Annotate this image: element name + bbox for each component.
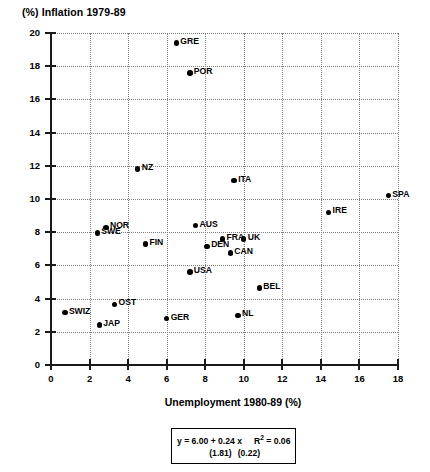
gridline-horizontal-10 bbox=[51, 199, 398, 200]
y-tick-label-8: 8 bbox=[8, 227, 40, 237]
data-point-label: AUS bbox=[200, 220, 218, 229]
data-point-label: BEL bbox=[263, 282, 280, 291]
y-tick-12 bbox=[45, 165, 56, 167]
data-point-marker bbox=[235, 313, 240, 318]
data-point-label: CAN bbox=[234, 247, 253, 256]
y-tick-8 bbox=[45, 231, 56, 233]
gridline-horizontal-12 bbox=[51, 166, 398, 167]
data-point-marker bbox=[257, 285, 262, 290]
data-point-marker bbox=[62, 310, 67, 315]
data-point-marker bbox=[241, 236, 246, 241]
y-tick-label-18: 18 bbox=[8, 61, 40, 71]
data-point-label: IRE bbox=[333, 206, 347, 215]
x-tick-0 bbox=[50, 359, 52, 370]
data-point-marker bbox=[174, 40, 179, 45]
x-tick-label-8: 8 bbox=[190, 374, 220, 384]
gridline-horizontal-20 bbox=[51, 33, 398, 34]
regression-annotation-box: y = 6.00 + 0.24 xR2 = 0.06 (1.81)(0.22) bbox=[171, 428, 296, 464]
x-axis-title: Unemployment 1980-89 (%) bbox=[0, 396, 430, 408]
data-point-label: DEN bbox=[211, 240, 229, 249]
data-point-label: SWE bbox=[101, 227, 121, 236]
data-point-marker bbox=[386, 193, 391, 198]
x-tick-4 bbox=[127, 359, 129, 370]
gridline-horizontal-2 bbox=[51, 332, 398, 333]
data-point-label: GER bbox=[171, 313, 190, 322]
y-tick-16 bbox=[45, 98, 56, 100]
gridline-horizontal-16 bbox=[51, 99, 398, 100]
data-point-label: FIN bbox=[149, 238, 163, 247]
x-tick-10 bbox=[243, 359, 245, 370]
data-point-marker bbox=[187, 269, 192, 274]
std-error-slope: (0.22) bbox=[238, 448, 260, 458]
std-error-intercept: (1.81) bbox=[209, 448, 231, 458]
x-tick-label-0: 0 bbox=[36, 374, 66, 384]
y-tick-label-0: 0 bbox=[8, 360, 40, 370]
data-point-label: NL bbox=[242, 309, 253, 318]
y-tick-2 bbox=[45, 331, 56, 333]
regression-equation: y = 6.00 + 0.24 x bbox=[177, 436, 242, 446]
data-point-marker bbox=[112, 302, 117, 307]
gridline-horizontal-4 bbox=[51, 299, 398, 300]
x-axis-line bbox=[50, 364, 399, 366]
gridline-horizontal-6 bbox=[51, 265, 398, 266]
data-point-label: ITA bbox=[238, 175, 251, 184]
gridline-horizontal-18 bbox=[51, 66, 398, 67]
y-tick-14 bbox=[45, 132, 56, 134]
data-point-marker bbox=[135, 166, 140, 171]
data-point-label: OST bbox=[119, 298, 137, 307]
data-point-marker bbox=[143, 241, 148, 246]
gridline-horizontal-14 bbox=[51, 133, 398, 134]
chart-title: (%) Inflation 1979-89 bbox=[22, 6, 126, 18]
data-point-label: GRE bbox=[180, 37, 199, 46]
y-tick-label-6: 6 bbox=[8, 260, 40, 270]
y-tick-label-20: 20 bbox=[8, 28, 40, 38]
r-squared-label: R2 = 0.06 bbox=[254, 436, 290, 446]
y-tick-label-10: 10 bbox=[8, 194, 40, 204]
x-tick-label-6: 6 bbox=[152, 374, 182, 384]
x-tick-label-12: 12 bbox=[267, 374, 297, 384]
data-point-marker bbox=[204, 244, 209, 249]
y-tick-label-12: 12 bbox=[8, 161, 40, 171]
y-tick-label-4: 4 bbox=[8, 294, 40, 304]
data-point-marker bbox=[95, 230, 100, 235]
data-point-marker bbox=[228, 250, 233, 255]
x-tick-label-2: 2 bbox=[75, 374, 105, 384]
y-tick-6 bbox=[45, 264, 56, 266]
x-tick-label-16: 16 bbox=[344, 374, 374, 384]
data-point-marker bbox=[193, 223, 198, 228]
y-tick-label-14: 14 bbox=[8, 128, 40, 138]
x-tick-8 bbox=[204, 359, 206, 370]
data-point-label: UK bbox=[248, 233, 260, 242]
data-point-label: POR bbox=[194, 67, 213, 76]
data-point-marker bbox=[97, 322, 102, 327]
plot-area: GREPORNZITASPAIRENORAUSSWEFRAUKFINDENCAN… bbox=[51, 33, 398, 365]
x-tick-18 bbox=[397, 359, 399, 370]
y-tick-20 bbox=[45, 32, 56, 34]
scatter-chart: (%) Inflation 1979-89 GREPORNZITASPAIREN… bbox=[0, 0, 430, 472]
x-tick-12 bbox=[281, 359, 283, 370]
data-point-label: NZ bbox=[142, 163, 153, 172]
data-point-marker bbox=[326, 210, 331, 215]
x-tick-14 bbox=[320, 359, 322, 370]
data-point-label: SPA bbox=[392, 190, 409, 199]
y-tick-18 bbox=[45, 65, 56, 67]
data-point-marker bbox=[164, 316, 169, 321]
x-tick-2 bbox=[89, 359, 91, 370]
data-point-marker bbox=[187, 70, 192, 75]
x-tick-label-4: 4 bbox=[113, 374, 143, 384]
x-tick-label-14: 14 bbox=[306, 374, 336, 384]
data-point-label: JAP bbox=[103, 319, 120, 328]
data-point-label: SWIZ bbox=[69, 307, 90, 316]
x-tick-6 bbox=[166, 359, 168, 370]
gridline-vertical-18 bbox=[398, 33, 399, 365]
y-tick-10 bbox=[45, 198, 56, 200]
y-tick-4 bbox=[45, 298, 56, 300]
data-point-label: USA bbox=[194, 266, 212, 275]
y-tick-label-2: 2 bbox=[8, 327, 40, 337]
x-tick-label-18: 18 bbox=[383, 374, 413, 384]
y-tick-label-16: 16 bbox=[8, 94, 40, 104]
x-tick-16 bbox=[358, 359, 360, 370]
data-point-marker bbox=[231, 178, 236, 183]
x-tick-label-10: 10 bbox=[229, 374, 259, 384]
